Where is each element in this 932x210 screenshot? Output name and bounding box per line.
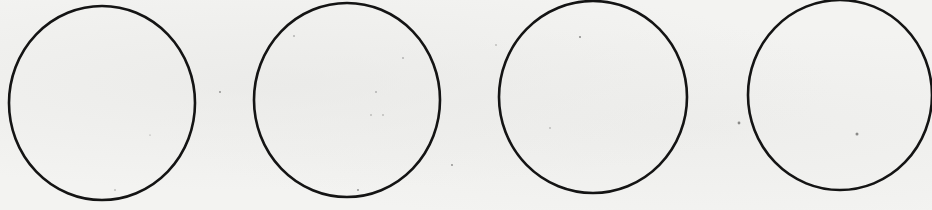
- speck: [402, 57, 404, 59]
- speck: [549, 127, 550, 128]
- speck: [357, 189, 359, 191]
- diagram-canvas: [0, 0, 932, 210]
- speck: [219, 91, 221, 93]
- paper-specks: [114, 35, 858, 191]
- speck: [382, 114, 383, 115]
- speck: [451, 164, 453, 166]
- speck: [579, 36, 581, 38]
- speck: [370, 114, 371, 115]
- circle-1: [9, 6, 195, 200]
- circle-3: [499, 1, 687, 193]
- speck: [495, 44, 496, 45]
- speck: [375, 91, 377, 93]
- circle-2: [254, 3, 440, 197]
- speck: [114, 189, 115, 190]
- speck: [856, 133, 859, 136]
- circles-diagram: [0, 0, 932, 210]
- speck: [293, 35, 295, 37]
- circle-4: [748, 0, 932, 190]
- speck: [149, 134, 150, 135]
- speck: [738, 122, 741, 125]
